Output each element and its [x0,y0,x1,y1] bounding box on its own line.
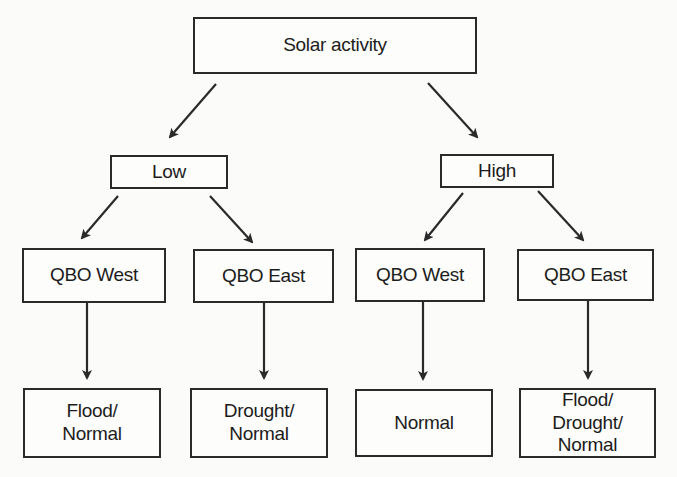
arrow-high-to-high_east [538,191,583,240]
arrow-low-to-low_east [210,196,252,242]
arrow-low-to-low_west [82,196,118,238]
node-label: Normal [394,412,453,435]
node-label: QBO East [544,264,627,287]
node-high: High [440,154,554,188]
arrow-solar-to-high [428,83,477,137]
node-label: High [478,160,516,183]
node-solar-activity: Solar activity [193,17,477,74]
node-low-qbo-east: QBO East [193,249,334,303]
node-high-qbo-west: QBO West [355,248,485,302]
node-low: Low [110,155,228,189]
edge-group [82,83,588,379]
node-label: Solar activity [283,34,387,57]
node-outcome-drought-normal: Drought/ Normal [190,388,328,458]
node-label: QBO East [222,265,305,288]
node-outcome-flood-drought-normal: Flood/ Drought/ Normal [519,388,656,458]
arrow-high-to-high_west [425,193,463,240]
node-label: Flood/ Drought/ Normal [552,389,622,457]
node-outcome-normal: Normal [355,389,493,457]
node-label: Flood/ Normal [62,400,121,446]
node-label: Drought/ Normal [224,400,294,446]
diagram-canvas: Solar activity Low High QBO West QBO Eas… [0,0,677,477]
node-high-qbo-east: QBO East [517,249,654,301]
node-outcome-flood-normal: Flood/ Normal [23,388,161,458]
node-low-qbo-west: QBO West [22,248,166,303]
arrow-solar-to-low [170,84,216,137]
node-label: Low [152,161,186,184]
node-label: QBO West [50,264,138,287]
node-label: QBO West [376,264,464,287]
